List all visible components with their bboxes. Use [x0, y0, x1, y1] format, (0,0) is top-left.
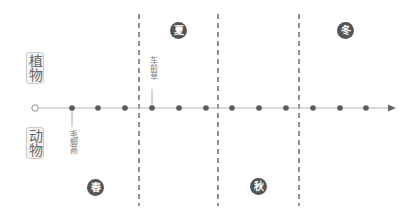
timeline-dot: [256, 105, 262, 111]
category-plant: 植物: [26, 52, 44, 84]
timeline-dot: [229, 105, 235, 111]
axis-arrow-icon: [388, 105, 396, 112]
timeline-dot: [95, 105, 101, 111]
season-winter-badge: 冬: [337, 22, 354, 39]
axis-start-marker: [32, 105, 38, 111]
season-autumn-badge: 秋: [250, 178, 267, 195]
timeline-dot: [122, 105, 128, 111]
event-label-animal: 毛脚燕: [67, 130, 77, 154]
season-dividers: [139, 14, 299, 206]
timeline-dot: [337, 105, 343, 111]
season-spring-badge: 春: [87, 179, 104, 196]
event-label-plant: 车前草: [147, 56, 157, 80]
category-animal: 动物: [26, 127, 44, 159]
season-summer-badge: 夏: [170, 22, 187, 39]
timeline-dot: [69, 105, 75, 111]
timeline-dot: [310, 105, 316, 111]
timeline-dot: [203, 105, 209, 111]
timeline-dot: [283, 105, 289, 111]
timeline-dot: [149, 105, 155, 111]
timeline-dot: [363, 105, 369, 111]
timeline-dot: [176, 105, 182, 111]
